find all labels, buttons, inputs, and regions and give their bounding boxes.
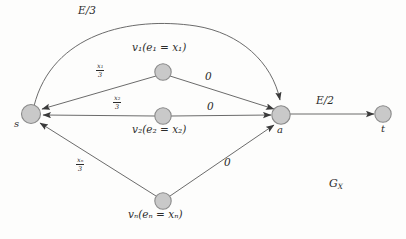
edge-label-E2: E/2	[316, 95, 334, 106]
node-a[interactable]	[272, 106, 290, 124]
edge-v2-to-a	[171, 115, 271, 116]
edge-label-zero-v1a: 0	[205, 71, 212, 82]
fraction-denominator-xn: 3	[76, 165, 84, 172]
node-label-t: t	[381, 124, 385, 134]
node-label-v1: v₁(e₁ = x₁)	[132, 42, 186, 53]
graph-name-main: G	[329, 177, 338, 190]
edge-label-zero-vna: 0	[224, 157, 231, 168]
node-label-a: a	[277, 125, 283, 135]
fraction-numerator-x1: x₁	[96, 63, 104, 71]
figure-canvas: E/3 v₁(e₁ = x₁) v₂(e₂ = x₂) vₙ(eₙ = xₙ) …	[0, 0, 406, 239]
graph-name-subscript: X	[338, 182, 343, 191]
edge-label-fraction-x1-over-3: x₁ 3	[96, 63, 104, 78]
node-label-s: s	[14, 119, 19, 129]
node-label-vn: vₙ(eₙ = xₙ)	[128, 209, 183, 220]
fraction-numerator-x2: x₂	[113, 95, 121, 103]
node-label-v2: v₂(e₂ = x₂)	[132, 124, 186, 135]
edge-s-to-a-arc	[34, 23, 280, 106]
edge-v1-to-a	[170, 76, 274, 109]
fraction-denominator-x2: 3	[113, 103, 121, 110]
fraction-numerator-xn: xₙ	[76, 157, 84, 165]
edge-v1-to-s	[42, 76, 156, 109]
fraction-denominator-x1: 3	[96, 71, 104, 78]
edge-v2-to-s	[43, 115, 155, 116]
graph-diagram	[0, 0, 406, 239]
edge-label-fraction-xn-over-3: xₙ 3	[76, 157, 84, 172]
node-v1[interactable]	[155, 64, 171, 80]
edge-label-zero-v2a: 0	[207, 101, 214, 112]
graph-name-label: GX	[329, 178, 343, 190]
edge-label-E3: E/3	[78, 5, 96, 16]
node-v2[interactable]	[155, 108, 171, 124]
edge-label-fraction-x2-over-3: x₂ 3	[113, 95, 121, 110]
edge-vn-to-a	[170, 125, 274, 196]
node-t[interactable]	[375, 106, 391, 122]
node-s[interactable]	[22, 105, 41, 124]
node-vn[interactable]	[155, 193, 171, 209]
